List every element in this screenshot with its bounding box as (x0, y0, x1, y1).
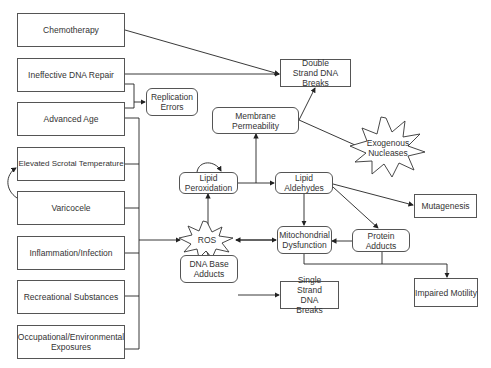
node-single-strand-breaks: Single Strand DNA Breaks (280, 281, 339, 309)
node-impaired-motility: Impaired Motility (414, 278, 478, 307)
node-ros: ROS (190, 233, 224, 247)
cause-varicocele: Varicocele (17, 191, 125, 225)
cause-advanced-age: Advanced Age (17, 102, 125, 136)
node-membrane-permeability: Membrane Permeability (212, 107, 299, 134)
node-double-strand-breaks: Double Strand DNA Breaks (280, 59, 351, 87)
cause-recreational-substances: Recreational Substances (17, 280, 125, 314)
node-replication-errors: Replication Errors (146, 88, 198, 116)
cause-inflammation-infection: Inflammation/Infection (17, 236, 125, 270)
cause-elevated-scrotal-temperature: Elevated Scrotal Temperature (17, 147, 125, 181)
node-exogenous-nucleases: Exogenous Nucleases (360, 136, 416, 160)
cause-chemotherapy: Chemotherapy (17, 13, 125, 47)
node-mitochondrial-dysfunction: Mitochondrial Dysfunction (277, 226, 332, 254)
node-lipid-aldehydes: Lipid Aldehydes (275, 172, 333, 194)
node-protein-adducts: Protein Adducts (352, 229, 410, 252)
node-mutagenesis: Mutagenesis (414, 194, 477, 218)
node-dna-base-adducts: DNA Base Adducts (180, 255, 238, 283)
cause-occupational-environmental: Occupational/Environmental Exposures (17, 325, 125, 359)
cause-ineffective-dna-repair: Ineffective DNA Repair (17, 58, 125, 92)
node-lipid-peroxidation: Lipid Peroxidation (179, 172, 238, 194)
